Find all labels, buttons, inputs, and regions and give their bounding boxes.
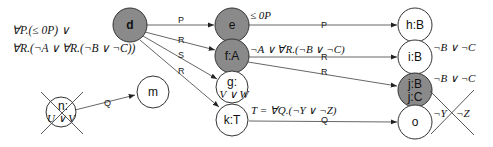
node-iB[interactable]: i:B [398,40,432,74]
node-iB-label: i:B [408,50,422,64]
node-e-label: e [229,18,236,32]
node-j-sublabel: j:C [407,90,423,104]
edge-label-fA-j: R [321,67,328,77]
node-fA[interactable]: f:A [215,39,249,73]
node-m[interactable]: m [137,76,169,108]
node-j-label: j:B [407,77,422,91]
node-e-annotation: ≤ 0P [250,9,271,21]
node-o-annotation-right: ¬Z [456,107,470,119]
node-kT-label: k:T [224,113,241,127]
node-kT[interactable]: k:T [216,104,248,136]
node-fA-label: f:A [225,49,240,63]
edge-label-kT-o: Q [321,115,328,125]
node-e[interactable]: e [215,8,249,42]
node-n[interactable]: n: U ∨ V [41,92,83,134]
edge-label-d-e: P [178,15,184,25]
node-d-label: d [126,18,133,32]
node-d[interactable]: d [113,8,147,42]
node-iB-annotation: ¬B ∨ ¬C [433,41,476,53]
node-m-label: m [148,85,158,99]
node-j[interactable]: j:B j:C [398,73,432,107]
node-o[interactable]: o [398,105,432,139]
node-g-sublabel: V ∨ W [219,88,249,100]
node-hB[interactable]: h:B [398,8,432,42]
node-o-label: o [412,115,419,129]
edge-label-e-hB: P [321,20,327,30]
edge-label-d-g: S [178,50,184,60]
tableau-diagram: P R S R Q P R R Q ∀P.(≤ 0P) ∨ ∀R.(¬A ∨ ∀… [0,0,493,147]
edge-label-d-fA: R [178,35,185,45]
node-hB-label: h:B [406,18,424,32]
node-o-annotation-left: ¬Y [433,107,448,119]
root-formula-line1: ∀P.(≤ 0P) ∨ [12,24,70,37]
node-kT-annotation: T = ∀Q.(¬Y ∨ ¬Z) [251,104,337,117]
node-g[interactable]: g: V ∨ W [216,71,249,103]
root-formula-line2: ∀R.(¬A ∨ ∀R.(¬B ∨ ¬C)) [12,42,136,55]
node-g-label: g: [227,75,237,89]
edge-label-d-kT: R [178,66,185,76]
node-j-annotation: ¬B ∨ ¬C [433,72,476,84]
node-fA-annotation: ¬A ∨ ∀R.(¬B ∨ ¬C) [250,43,345,56]
edge-label-n-m: Q [104,98,111,108]
